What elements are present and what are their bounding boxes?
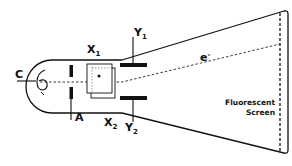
electron-beam-dashed [40, 44, 280, 82]
screen-label-line1: Fluorescent [225, 98, 275, 107]
tube-envelope [26, 11, 288, 153]
crt-diagram: C A X1 X2 Y1 Y2 e- Fluorescent Screen [0, 0, 292, 166]
x-plate-front [87, 64, 112, 93]
y1-label: Y1 [133, 26, 147, 41]
anode-plate-bottom [70, 87, 74, 99]
y-plate-top [120, 63, 147, 67]
y-plate-bottom [120, 96, 147, 100]
cathode-label: C [15, 68, 23, 81]
screen-label-line2: Screen [246, 108, 275, 117]
x1-label: X1 [87, 43, 100, 58]
crt-svg: C A X1 X2 Y1 Y2 e- Fluorescent Screen [0, 0, 292, 166]
electron-label: e- [200, 51, 210, 64]
filament-icon [37, 70, 47, 90]
x-plate-center-dot [98, 75, 101, 78]
anode-plate-top [70, 65, 74, 77]
y2-label: Y2 [124, 121, 138, 136]
filament-tail [41, 92, 44, 95]
anode-label: A [75, 111, 84, 124]
x2-label: X2 [104, 116, 117, 131]
